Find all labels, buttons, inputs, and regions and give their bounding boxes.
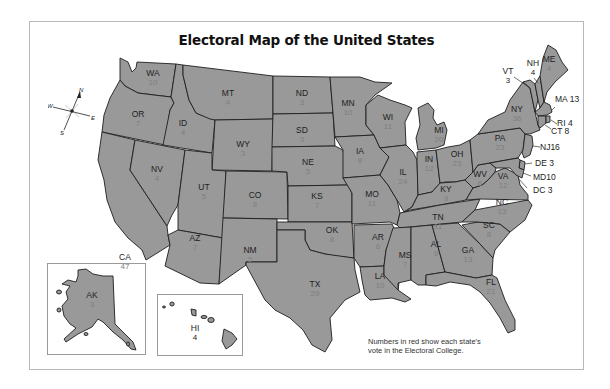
label-ma: MA 13: [555, 94, 579, 104]
label-wa: WA10: [146, 69, 159, 87]
label-ut: UT5: [198, 183, 209, 201]
label-mn: MN10: [341, 99, 354, 117]
state-ma[interactable]: [535, 102, 552, 116]
label-sd: SD3: [296, 126, 308, 144]
label-sc: SC8: [483, 221, 495, 239]
label-al: AL9: [431, 240, 441, 258]
label-ct: CT 8: [551, 126, 569, 136]
label-la: LA10: [375, 272, 385, 290]
label-or: OR7: [132, 110, 145, 128]
alaska-shape: [48, 264, 145, 354]
label-va: VA12: [498, 172, 509, 190]
label-ca: CA47: [119, 253, 131, 271]
label-ne: NE5: [302, 158, 314, 176]
label-dc: DC 3: [533, 185, 552, 195]
label-mi: MI20: [434, 126, 443, 144]
state-ri[interactable]: [546, 116, 550, 123]
compass-e: E: [91, 115, 96, 121]
label-ky: KY9: [440, 185, 451, 203]
label-tn: TN11: [432, 213, 443, 231]
label-de: DE 3: [535, 158, 554, 168]
label-ks: KS7: [311, 192, 322, 210]
label-oh: OH23: [451, 150, 464, 168]
label-nm: NM5: [243, 246, 256, 264]
legend-note: Numbers in red show each state's vote in…: [368, 337, 518, 355]
compass-s: S: [60, 130, 64, 136]
label-fl: FL21: [486, 278, 496, 296]
label-il: IL24: [399, 168, 408, 186]
compass-w: W: [48, 103, 54, 109]
state-ct[interactable]: [538, 116, 546, 128]
label-nv: NV4: [151, 165, 163, 183]
label-tx: TX29: [310, 280, 321, 298]
island-hawaii: [222, 329, 237, 349]
label-mt: MT4: [222, 89, 234, 107]
label-nc: NC13: [496, 198, 508, 216]
state-fl[interactable]: [426, 272, 515, 333]
label-ak: AK 3: [86, 291, 97, 309]
label-ia: IA8: [356, 147, 364, 165]
label-in: IN12: [425, 155, 434, 173]
label-ok: OK8: [326, 226, 338, 244]
label-md: MD10: [533, 172, 556, 182]
label-az: AZ7: [190, 234, 201, 252]
label-me: ME4: [543, 55, 556, 73]
compass-n: N: [79, 88, 84, 93]
label-mo: MO11: [365, 190, 379, 208]
label-wv: WV6: [473, 170, 487, 188]
label-co: CO8: [249, 191, 262, 209]
label-vt: VT3: [503, 67, 514, 85]
label-ar: AR6: [372, 233, 384, 251]
label-nh: NH4: [527, 59, 539, 77]
label-nj: NJ16: [540, 142, 560, 152]
label-ms: MS7: [399, 251, 412, 269]
compass-rose-icon: N W E S: [48, 88, 108, 136]
label-ga: GA13: [462, 246, 474, 264]
hawaii-shape: [158, 295, 242, 355]
inset-alaska: AK 3: [47, 263, 146, 355]
label-wy: WY3: [236, 140, 250, 158]
label-id: ID4: [179, 119, 188, 137]
label-wi: WI11: [383, 113, 393, 131]
label-pa: PA23: [495, 134, 506, 152]
inset-hawaii: HI 4: [157, 294, 243, 356]
label-nd: ND3: [296, 89, 308, 107]
state-ak[interactable]: [62, 269, 136, 350]
label-ny: NY36: [511, 105, 523, 123]
label-hi: HI 4: [191, 324, 200, 342]
